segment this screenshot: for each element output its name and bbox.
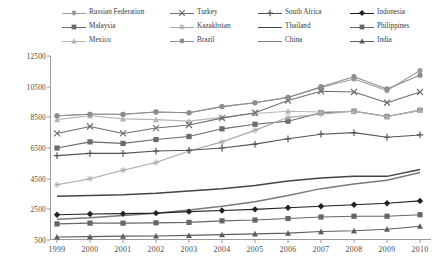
data-point — [252, 141, 258, 148]
legend-item-indonesia[interactable]: Indonesia — [350, 9, 434, 18]
x-tick-mark — [420, 240, 421, 243]
legend-marker-triangle-icon — [358, 37, 367, 46]
data-point — [219, 218, 224, 223]
legend-label: China — [284, 37, 302, 44]
legend-item-china[interactable]: China — [258, 37, 350, 46]
data-point — [186, 134, 191, 139]
data-point — [417, 212, 422, 217]
data-point — [54, 182, 60, 188]
plot-area: 50025004500650085001050012500 1999200020… — [50, 56, 431, 240]
data-point — [417, 132, 423, 139]
series-line — [57, 173, 420, 220]
data-point — [384, 200, 390, 206]
series-line — [57, 226, 420, 237]
legend-marker-square-icon — [70, 23, 79, 32]
x-tick-label: 2008 — [345, 245, 362, 254]
data-point — [384, 100, 390, 106]
data-point — [87, 211, 93, 217]
legend-item-mexico[interactable]: Mexico — [62, 37, 170, 46]
data-point — [285, 95, 290, 100]
data-point — [417, 89, 423, 95]
legend-label: Philippines — [376, 23, 409, 30]
legend-marker-circle-icon — [178, 37, 187, 46]
legend-item-malaysia[interactable]: Malaysia — [62, 23, 170, 32]
x-tick-mark — [354, 240, 355, 243]
legend-swatch-icon — [258, 37, 282, 46]
data-point — [285, 135, 291, 142]
data-point — [219, 145, 225, 152]
data-point — [318, 84, 323, 89]
x-tick-mark — [123, 240, 124, 243]
data-point — [351, 214, 356, 219]
data-point — [351, 202, 357, 208]
data-point — [219, 104, 224, 109]
series-line — [57, 91, 420, 133]
data-point — [351, 129, 357, 136]
x-tick-mark — [255, 240, 256, 243]
data-point — [54, 221, 59, 226]
legend-label: Mexico — [88, 37, 111, 44]
data-point — [153, 137, 158, 142]
x-tick-label: 2005 — [246, 245, 263, 254]
series-line — [57, 110, 420, 148]
y-tick-label: 8500 — [30, 113, 46, 122]
data-point — [120, 141, 125, 146]
x-tick-label: 2002 — [147, 245, 164, 254]
data-point — [87, 139, 92, 144]
x-tick-label: 1999 — [48, 245, 65, 254]
data-point — [384, 134, 390, 141]
legend-item-russian-federation[interactable]: Russian Federation — [62, 9, 170, 18]
data-point — [417, 73, 422, 78]
data-point — [87, 150, 93, 157]
legend-swatch-icon — [170, 37, 194, 46]
series-indonesia — [54, 198, 423, 218]
series-line — [57, 201, 420, 215]
legend-marker-plus-icon — [266, 9, 275, 18]
x-tick-mark — [321, 240, 322, 243]
data-point — [252, 100, 257, 105]
legend-label: South Africa — [284, 9, 322, 16]
data-point — [120, 150, 126, 157]
y-tick-label: 2500 — [30, 205, 46, 214]
x-tick-mark — [156, 240, 157, 243]
legend-label: Kazakhstan — [196, 23, 231, 30]
legend-marker-cross-x-icon — [178, 9, 187, 18]
data-point — [87, 176, 93, 182]
legend-item-brazil[interactable]: Brazil — [170, 37, 258, 46]
data-point — [318, 203, 324, 209]
legend-swatch-icon — [62, 9, 86, 18]
data-point — [54, 152, 60, 159]
legend-item-turkey[interactable]: Turkey — [170, 9, 258, 18]
legend-label: Turkey — [196, 9, 218, 16]
legend-item-south-africa[interactable]: South Africa — [258, 9, 350, 18]
series-layer — [50, 56, 431, 240]
legend-line — [258, 27, 282, 28]
data-point — [153, 109, 158, 114]
x-tick-label: 2010 — [411, 245, 428, 254]
data-point — [87, 221, 92, 226]
legend-item-thailand[interactable]: Thailand — [258, 23, 350, 32]
y-tick-label: 500 — [34, 236, 46, 245]
data-point — [186, 220, 191, 225]
data-point — [252, 217, 257, 222]
data-point — [318, 214, 323, 219]
data-point — [417, 198, 423, 204]
series-china — [57, 173, 420, 220]
legend-item-india[interactable]: India — [350, 37, 434, 46]
data-point — [120, 112, 125, 117]
legend-item-kazakhstan[interactable]: Kazakhstan — [170, 23, 258, 32]
legend-item-philippines[interactable]: Philippines — [350, 23, 434, 32]
x-tick-mark — [222, 240, 223, 243]
series-line — [57, 110, 420, 185]
x-tick-mark — [189, 240, 190, 243]
y-tick-label: 10500 — [27, 82, 46, 91]
data-point — [153, 159, 159, 165]
legend-label: Thailand — [284, 23, 311, 30]
data-point — [384, 86, 389, 91]
x-tick-label: 2003 — [180, 245, 197, 254]
legend-marker-circle-icon — [70, 9, 79, 18]
x-tick-label: 2004 — [213, 245, 230, 254]
legend-label: Russian Federation — [88, 9, 144, 16]
legend-label: Brazil — [196, 37, 215, 44]
data-point — [87, 112, 92, 117]
